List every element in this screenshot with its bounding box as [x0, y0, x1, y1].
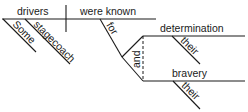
- modifier-their-1: their: [179, 34, 202, 57]
- predicate-word: were known: [79, 5, 136, 17]
- modifier-stagecoach: stagecoach: [32, 18, 79, 65]
- object-bravery: bravery: [172, 67, 208, 79]
- object-determination: determination: [160, 22, 224, 34]
- conjunction-and: and: [130, 50, 142, 68]
- modifier-some: Some: [11, 18, 39, 46]
- sentence-diagram: drivers were known Some stagecoach for a…: [0, 0, 248, 112]
- preposition-for: for: [104, 20, 121, 37]
- subject-word: drivers: [17, 5, 49, 17]
- modifier-their-2: their: [180, 79, 203, 102]
